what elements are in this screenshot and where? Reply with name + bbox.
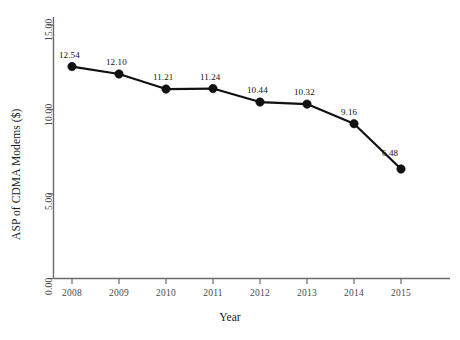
data-point-label: 12.10 (106, 57, 127, 67)
x-tick-label: 2012 (235, 288, 285, 298)
data-point-label: 11.21 (153, 72, 173, 82)
data-point-marker (68, 62, 76, 70)
y-tick-label: 15.00 (44, 19, 54, 41)
data-point-label: 11.24 (200, 72, 220, 82)
x-axis-title: Year (0, 311, 460, 323)
x-tick-label: 2011 (188, 288, 238, 298)
x-tick-label: 2008 (47, 288, 97, 298)
data-point-label: 9.16 (341, 107, 357, 117)
data-point-label: 10.44 (247, 85, 268, 95)
data-point-marker (209, 84, 217, 92)
x-tick-label: 2010 (141, 288, 191, 298)
x-tick-label: 2015 (376, 288, 426, 298)
chart-data-markers (68, 62, 405, 173)
data-point-marker (350, 119, 358, 127)
x-tick-label: 2009 (94, 288, 144, 298)
x-tick-label: 2013 (282, 288, 332, 298)
y-tick-label: 5.00 (44, 193, 54, 210)
data-point-label: 10.32 (294, 87, 315, 97)
y-tick-label: 10.00 (44, 103, 54, 125)
data-point-label: 6.48 (382, 148, 398, 158)
data-point-marker (256, 98, 264, 106)
data-point-marker (162, 85, 170, 93)
data-point-label: 12.54 (59, 50, 80, 60)
chart-tick-marks (48, 25, 401, 284)
x-tick-label: 2014 (329, 288, 379, 298)
data-point-marker (397, 165, 405, 173)
y-axis-title: ASP of CDMA Modems ($) (10, 109, 22, 240)
data-point-marker (303, 100, 311, 108)
chart-series-line (72, 67, 401, 169)
series-polyline (72, 67, 401, 169)
data-point-marker (115, 70, 123, 78)
chart-figure: 0.005.0010.0015.002008200920102011201220… (0, 0, 460, 340)
